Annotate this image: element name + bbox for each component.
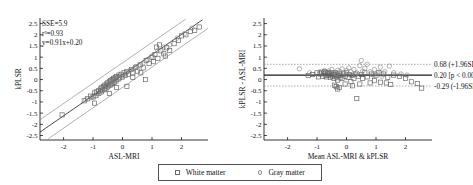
y-tick-label: 1 (258, 54, 262, 62)
data-point-white-matter (386, 75, 390, 79)
reference-line-label-0: 0.68 (+1.96SD) (434, 61, 473, 69)
circle-marker-icon (258, 170, 263, 175)
x-tick-label: 0 (121, 143, 125, 151)
data-point-white-matter (151, 60, 155, 64)
y-tick-label: -2 (32, 121, 38, 129)
figure-container: 2.521.510.50-0.5-1-1.5-2-2.5-2-1012ASL-M… (0, 0, 473, 185)
y-tick-label: -2 (256, 121, 262, 129)
regression-annotation: r²=0.93 (42, 30, 64, 38)
y-tick-label: -1 (256, 98, 262, 106)
data-point-gray-matter (378, 65, 382, 69)
y-tick-label: 0.5 (29, 65, 38, 73)
y-tick-label: 0 (34, 76, 38, 84)
legend-label-white-matter: White matter (186, 168, 226, 177)
data-point-white-matter (368, 81, 372, 85)
x-tick-label: 1 (150, 143, 154, 151)
y-tick-label: 2 (34, 31, 38, 39)
y-tick-label: -1 (32, 98, 38, 106)
reference-line-label-1: 0.20 [p < 0.001] (434, 72, 473, 80)
regression-plot-panel: 2.521.510.50-0.5-1-1.5-2-2.5-2-1012ASL-M… (0, 0, 240, 160)
y-tick-label: -0.5 (250, 87, 262, 95)
square-marker-icon (175, 170, 180, 175)
data-point-white-matter (168, 48, 172, 52)
y-tick-label: 1 (34, 54, 38, 62)
data-point-white-matter (415, 82, 419, 86)
x-tick-label: -2 (285, 143, 291, 151)
x-tick-label: 1 (374, 143, 378, 151)
y-tick-label: -1.5 (250, 110, 262, 118)
x-axis-label: ASL-MRI (109, 152, 140, 161)
data-point-white-matter (355, 97, 359, 101)
y-tick-label: -2.5 (26, 132, 38, 140)
data-point-white-matter (147, 61, 151, 65)
reference-line-label-2: -0.29 (-1.96SD) (434, 83, 473, 91)
regression-plot-svg: 2.521.510.50-0.5-1-1.5-2-2.5-2-1012ASL-M… (0, 0, 240, 160)
x-tick-label: -1 (314, 143, 320, 151)
y-tick-label: 0 (258, 76, 262, 84)
y-tick-label: 0.5 (253, 65, 262, 73)
regression-annotation: SSE=5.9 (42, 20, 68, 28)
data-point-white-matter (346, 75, 350, 79)
data-point-gray-matter (168, 43, 172, 47)
data-point-white-matter (384, 81, 388, 85)
data-point-white-matter (141, 66, 145, 70)
y-tick-label: -1.5 (26, 110, 38, 118)
bland-altman-plot-svg: 2.521.510.50-0.5-1-1.5-2-2.5-2-1012Mean … (237, 0, 473, 160)
y-tick-label: 2.5 (29, 20, 38, 28)
data-point-white-matter (92, 101, 96, 105)
y-tick-label: 2.5 (253, 20, 262, 28)
figure-legend: White matter Gray matter (158, 164, 322, 181)
x-axis-label: Mean ASL-MRI & kPLSR (308, 152, 389, 161)
y-axis-label: kPLSR - ASL-MRI (238, 49, 247, 108)
data-point-gray-matter (359, 58, 363, 62)
x-tick-label: -1 (90, 143, 96, 151)
x-tick-label: -2 (61, 143, 67, 151)
data-point-gray-matter (358, 63, 362, 67)
data-point-gray-matter (387, 64, 391, 68)
y-axis-label: kPLSR (14, 68, 23, 90)
data-point-white-matter (358, 82, 362, 86)
y-tick-label: 1.5 (29, 42, 38, 50)
data-point-white-matter (197, 25, 201, 29)
legend-item-white-matter: White matter (175, 168, 225, 177)
data-point-white-matter (193, 28, 197, 32)
data-point-white-matter (143, 78, 147, 82)
legend-label-gray-matter: Gray matter (268, 168, 304, 177)
x-tick-label: 2 (180, 143, 184, 151)
data-point-white-matter (115, 85, 119, 89)
data-point-white-matter (172, 42, 176, 46)
x-tick-label: 0 (345, 143, 349, 151)
bland-altman-plot-panel: 2.521.510.50-0.5-1-1.5-2-2.5-2-1012Mean … (237, 0, 473, 160)
data-point-white-matter (378, 80, 382, 84)
data-point-white-matter (131, 75, 135, 79)
data-point-white-matter (125, 84, 129, 88)
data-point-white-matter (420, 86, 424, 90)
data-point-white-matter (107, 91, 111, 95)
data-point-white-matter (409, 80, 413, 84)
x-tick-label: 2 (404, 143, 408, 151)
y-tick-label: -0.5 (26, 87, 38, 95)
y-tick-label: 1.5 (253, 42, 262, 50)
data-point-white-matter (372, 79, 376, 83)
data-point-white-matter (184, 33, 188, 37)
data-point-white-matter (343, 82, 347, 86)
legend-item-gray-matter: Gray matter (258, 168, 305, 177)
data-point-gray-matter (297, 67, 301, 71)
data-point-gray-matter (162, 45, 166, 49)
regression-annotation: y=0.91x+0.20 (42, 39, 83, 47)
data-point-white-matter (315, 71, 319, 75)
y-tick-label: 2 (258, 31, 262, 39)
y-tick-label: -2.5 (250, 132, 262, 140)
